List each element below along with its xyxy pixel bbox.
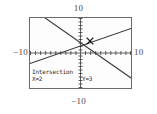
axis-label-ymax: 10 <box>0 3 157 13</box>
axis-label-xmin: −10 <box>2 47 28 57</box>
readout-y-value: Y=3 <box>82 75 92 82</box>
readout-title: Intersection <box>32 68 73 75</box>
axis-label-xmax: 10 <box>134 47 156 57</box>
axis-label-ymin: −10 <box>0 96 157 106</box>
plot-area[interactable] <box>30 18 131 88</box>
calculator-screenshot: 10 −10 10 −10 <box>0 0 157 114</box>
readout-x-value: X=2 <box>32 75 42 82</box>
calculator-screen[interactable]: Intersection X=2 Y=3 <box>29 17 132 89</box>
